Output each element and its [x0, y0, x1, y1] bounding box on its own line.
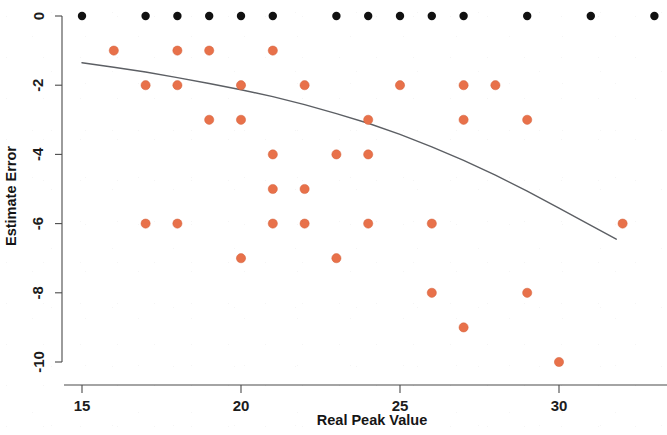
- data-point: [173, 12, 181, 20]
- data-point: [141, 12, 149, 20]
- data-point: [650, 12, 658, 20]
- y-tick-label: -6: [30, 217, 47, 230]
- data-point: [205, 115, 214, 124]
- data-point: [141, 219, 150, 228]
- data-point: [236, 115, 245, 124]
- data-point: [395, 81, 404, 90]
- data-point: [268, 46, 277, 55]
- data-point: [205, 46, 214, 55]
- data-point: [427, 288, 436, 297]
- x-tick-label: 30: [551, 397, 568, 414]
- scatter-plot-figure: 0-2-4-6-8-1015202530Real Peak ValueEstim…: [0, 0, 667, 435]
- data-point: [300, 219, 309, 228]
- data-point: [587, 12, 595, 20]
- data-point: [173, 81, 182, 90]
- data-point: [205, 12, 213, 20]
- data-point: [523, 288, 532, 297]
- data-point: [141, 81, 150, 90]
- data-point: [554, 357, 563, 366]
- y-tick-label: -8: [30, 286, 47, 299]
- data-point: [237, 12, 245, 20]
- data-point: [332, 12, 340, 20]
- data-point: [236, 81, 245, 90]
- data-point: [300, 81, 309, 90]
- data-point: [78, 12, 86, 20]
- data-point: [523, 12, 531, 20]
- data-point: [268, 150, 277, 159]
- y-tick-label: -4: [30, 147, 47, 161]
- y-tick-label: 0: [30, 12, 47, 20]
- x-axis-title: Real Peak Value: [317, 412, 427, 428]
- data-point: [459, 323, 468, 332]
- data-point: [459, 115, 468, 124]
- x-tick-label: 15: [74, 397, 91, 414]
- data-point: [523, 115, 532, 124]
- data-point: [269, 12, 277, 20]
- y-axis-title: Estimate Error: [3, 146, 19, 246]
- plot-canvas: 0-2-4-6-8-1015202530Real Peak ValueEstim…: [0, 0, 667, 435]
- data-point: [300, 184, 309, 193]
- data-point: [491, 81, 500, 90]
- data-point: [364, 115, 373, 124]
- x-tick-label: 20: [233, 397, 250, 414]
- data-point: [364, 150, 373, 159]
- data-point: [618, 219, 627, 228]
- y-tick-label: -10: [30, 351, 47, 373]
- data-point: [236, 254, 245, 263]
- data-point: [332, 254, 341, 263]
- data-point: [364, 12, 372, 20]
- data-point: [459, 12, 467, 20]
- data-point: [459, 81, 468, 90]
- data-point: [332, 150, 341, 159]
- data-point: [173, 46, 182, 55]
- data-point: [268, 219, 277, 228]
- y-tick-label: -2: [30, 79, 47, 92]
- data-point: [428, 12, 436, 20]
- data-point: [396, 12, 404, 20]
- data-point: [427, 219, 436, 228]
- data-point: [364, 219, 373, 228]
- data-point: [268, 184, 277, 193]
- data-point: [109, 46, 118, 55]
- data-point: [173, 219, 182, 228]
